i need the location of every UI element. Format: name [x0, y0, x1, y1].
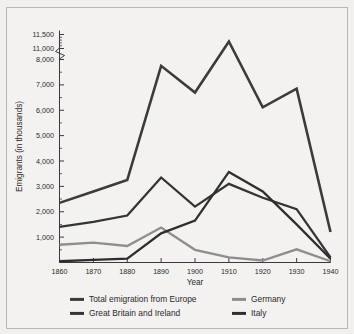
x-tick-label: 1900 [187, 267, 203, 276]
x-tick-label: 1890 [153, 267, 169, 276]
legend-label-italy: Italy [251, 308, 267, 318]
series-line-0 [60, 42, 331, 233]
y-tick-label: 11,500 [33, 30, 54, 39]
y-tick-label: 6,000 [36, 106, 54, 115]
y-tick-label: 8,000 [36, 55, 54, 64]
x-tick-label: 1910 [221, 267, 237, 276]
chart-svg: 1,0002,0003,0004,0005,0006,0007,0008,000… [0, 0, 354, 334]
x-tick-label: 1860 [52, 267, 68, 276]
series-line-3 [60, 172, 331, 261]
x-tick-label: 1880 [119, 267, 135, 276]
y-tick-label: 4,000 [36, 157, 54, 166]
x-tick-label: 1920 [255, 267, 271, 276]
y-tick-label: 1,000 [36, 233, 54, 242]
series-line-2 [60, 227, 331, 261]
line-chart: 1,0002,0003,0004,0005,0006,0007,0008,000… [0, 0, 354, 334]
x-tick-label: 1870 [85, 267, 101, 276]
y-tick-label: 7,000 [36, 80, 54, 89]
y-tick-label: 3,000 [36, 182, 54, 191]
legend-label-germany: Germany [251, 294, 286, 304]
legend-label-great-britain-and-ireland: Great Britain and Ireland [89, 308, 181, 318]
legend-label-total-emigration-from-europe: Total emigration from Europe [89, 294, 197, 304]
x-axis-title: Year [187, 278, 204, 287]
x-tick-label: 1930 [289, 267, 305, 276]
y-axis-title: Emigrants (in thousands) [15, 101, 24, 192]
y-tick-label: 5,000 [36, 131, 54, 140]
page-background: 1,0002,0003,0004,0005,0006,0007,0008,000… [0, 0, 354, 334]
x-tick-label: 1940 [323, 267, 339, 276]
y-tick-label: 11,000 [33, 44, 54, 53]
y-tick-label: 2,000 [36, 207, 54, 216]
